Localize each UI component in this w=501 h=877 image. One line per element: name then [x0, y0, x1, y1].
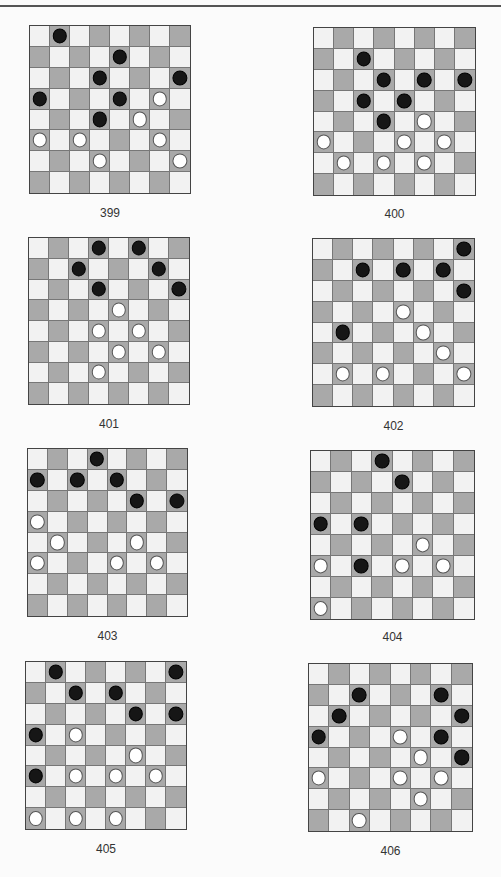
board-square	[49, 238, 69, 259]
board-square	[130, 26, 150, 47]
board-square	[373, 260, 393, 281]
board-square	[452, 706, 472, 727]
board-square	[353, 385, 373, 406]
black-checker-piece	[354, 558, 369, 573]
board-square	[68, 574, 88, 595]
board-square	[391, 664, 411, 685]
board-square	[169, 280, 189, 301]
white-checker-piece	[396, 304, 411, 319]
board-square	[454, 472, 474, 493]
board-square	[28, 491, 48, 512]
board-square	[455, 112, 475, 133]
board-square	[350, 768, 370, 789]
board-square	[395, 153, 415, 174]
board-square	[50, 26, 70, 47]
board-square	[352, 493, 372, 514]
black-checker-piece	[335, 325, 350, 340]
board-square	[108, 491, 128, 512]
board-square	[311, 472, 331, 493]
board-square	[106, 808, 126, 829]
board-square	[393, 451, 413, 472]
board-square	[149, 342, 169, 363]
board-square	[109, 280, 129, 301]
board-square	[413, 472, 433, 493]
board-square	[68, 533, 88, 554]
board-square	[48, 491, 68, 512]
board-square	[414, 343, 434, 364]
board-square	[415, 132, 435, 153]
board-square	[167, 491, 187, 512]
board-square	[109, 238, 129, 259]
board-square	[431, 685, 451, 706]
board-square	[414, 281, 434, 302]
board-square	[411, 810, 431, 831]
board-square	[30, 26, 50, 47]
board-square	[50, 172, 70, 193]
board-square	[170, 26, 190, 47]
board-square	[393, 598, 413, 619]
board-square	[452, 789, 472, 810]
board-square	[334, 49, 354, 70]
board-square	[372, 535, 392, 556]
board-square	[86, 787, 106, 808]
board-square	[391, 685, 411, 706]
board-square	[373, 323, 393, 344]
board-square	[108, 470, 128, 491]
black-checker-piece	[172, 70, 187, 85]
board-square	[431, 789, 451, 810]
board-square	[169, 300, 189, 321]
white-checker-piece	[128, 748, 142, 763]
board-square	[435, 132, 455, 153]
board-square	[50, 130, 70, 151]
checkers-board	[308, 663, 473, 832]
board-square	[66, 683, 86, 704]
black-checker-piece	[454, 708, 469, 723]
black-checker-piece	[356, 262, 371, 277]
board-square	[452, 727, 472, 748]
board-square	[66, 787, 86, 808]
board-square	[350, 664, 370, 685]
board-square	[311, 451, 331, 472]
board-square	[354, 91, 374, 112]
board-square	[28, 512, 48, 533]
white-checker-piece	[393, 771, 408, 786]
board-square	[48, 574, 68, 595]
board-square	[354, 112, 374, 133]
board-square	[395, 28, 415, 49]
board-square	[372, 472, 392, 493]
checkers-diagram: 406	[308, 663, 473, 867]
board-square	[370, 685, 390, 706]
board-square	[28, 533, 48, 554]
board-square	[374, 28, 394, 49]
board-square	[106, 704, 126, 725]
board-square	[333, 281, 353, 302]
board-square	[166, 662, 186, 683]
board-square	[431, 810, 451, 831]
board-square	[29, 383, 49, 404]
board-square	[169, 383, 189, 404]
board-square	[30, 130, 50, 151]
checkers-diagram: 402	[312, 238, 475, 442]
board-square	[130, 151, 150, 172]
board-square	[108, 512, 128, 533]
board-square	[329, 685, 349, 706]
white-checker-piece	[91, 365, 105, 380]
board-square	[455, 91, 475, 112]
board-square	[394, 260, 414, 281]
board-square	[48, 595, 68, 616]
black-checker-piece	[456, 283, 471, 298]
board-square	[414, 385, 434, 406]
board-square	[411, 768, 431, 789]
board-square	[66, 704, 86, 725]
white-checker-piece	[417, 156, 432, 171]
board-square	[149, 383, 169, 404]
black-checker-piece	[130, 493, 144, 508]
checkers-board	[29, 25, 191, 194]
board-square	[454, 343, 474, 364]
board-square	[433, 598, 453, 619]
board-square	[48, 512, 68, 533]
board-square	[433, 577, 453, 598]
board-square	[395, 91, 415, 112]
board-square	[454, 514, 474, 535]
board-square	[350, 810, 370, 831]
